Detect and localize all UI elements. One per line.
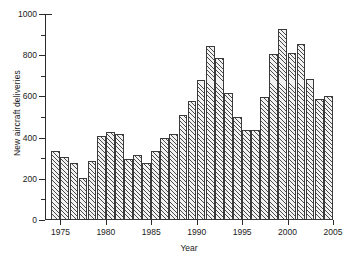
bar-1982 <box>124 159 133 220</box>
x-tick-1975 <box>60 220 61 225</box>
bar-1984 <box>142 163 151 220</box>
bar-1977 <box>79 178 88 220</box>
x-tick-1995 <box>242 220 243 225</box>
y-tick-label-600: 600 <box>0 91 37 101</box>
x-tick-label-1990: 1990 <box>177 227 217 237</box>
bar-1994 <box>233 117 242 220</box>
bar-series-new-aircraft-deliveries <box>45 14 333 220</box>
x-tick-label-2000: 2000 <box>268 227 308 237</box>
bar-1996 <box>251 130 260 220</box>
bar-1974 <box>51 151 60 220</box>
x-tick-2005 <box>333 220 334 225</box>
bar-1979 <box>97 136 106 220</box>
x-tick-label-1980: 1980 <box>86 227 126 237</box>
bar-1978 <box>88 161 97 220</box>
bar-1998 <box>269 54 278 220</box>
bar-1995 <box>242 130 251 220</box>
x-tick-2000 <box>288 220 289 225</box>
bar-1999 <box>278 29 287 220</box>
bar-1985 <box>151 151 160 220</box>
x-tick-label-1985: 1985 <box>131 227 171 237</box>
y-tick-label-0: 0 <box>0 215 37 225</box>
bar-1988 <box>179 115 188 220</box>
bar-1989 <box>188 101 197 220</box>
bar-1993 <box>224 93 233 220</box>
bar-1980 <box>106 132 115 220</box>
bar-2001 <box>297 44 306 220</box>
bar-1992 <box>215 58 224 220</box>
bar-1975 <box>60 157 69 220</box>
bar-2000 <box>288 53 297 220</box>
bar-1983 <box>133 155 142 220</box>
bar-1986 <box>160 138 169 220</box>
y-tick-0 <box>39 220 45 221</box>
y-tick-label-200: 200 <box>0 174 37 184</box>
x-tick-1980 <box>106 220 107 225</box>
x-tick-label-1975: 1975 <box>40 227 80 237</box>
x-tick-label-1995: 1995 <box>222 227 262 237</box>
x-tick-1990 <box>197 220 198 225</box>
y-tick-label-1000: 1000 <box>0 9 37 19</box>
bar-1997 <box>260 97 269 220</box>
bar-1981 <box>115 134 124 220</box>
bar-1991 <box>206 46 215 220</box>
bar-2004 <box>324 96 333 220</box>
x-tick-label-2005: 2005 <box>313 227 353 237</box>
bar-1987 <box>169 134 178 220</box>
chart-figure: New aircraft deliveries 0200400600800100… <box>0 0 361 266</box>
bar-1990 <box>197 80 206 220</box>
y-tick-label-800: 800 <box>0 50 37 60</box>
bar-2002 <box>306 79 315 220</box>
x-axis-title: Year <box>45 243 333 253</box>
x-tick-1985 <box>151 220 152 225</box>
bar-2003 <box>315 99 324 220</box>
y-tick-label-400: 400 <box>0 133 37 143</box>
bar-1976 <box>70 163 79 220</box>
